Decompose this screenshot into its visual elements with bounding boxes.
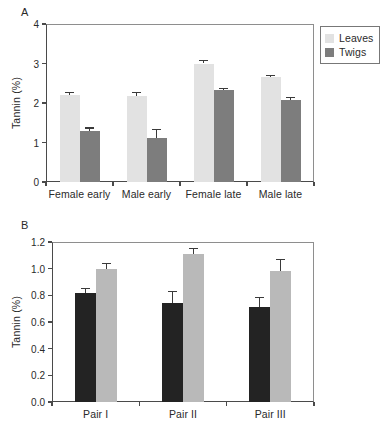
y-tick-mark <box>48 241 52 242</box>
y-tick-label: 1.0 <box>0 263 45 274</box>
bar-control-pair-i <box>96 269 117 402</box>
legend-swatch-icon <box>325 48 334 57</box>
y-tick-label: 0.6 <box>0 317 45 328</box>
x-tick-label: Male early <box>122 188 171 200</box>
x-tick-mark <box>45 182 46 186</box>
bar-control-pair-ii <box>183 254 204 402</box>
error-bar <box>156 129 157 138</box>
x-tick-label: Male late <box>259 188 303 200</box>
y-tick-mark <box>48 375 52 376</box>
y-tick-label: 0.2 <box>0 370 45 381</box>
legend-entry-leaves: Leaves <box>325 31 373 45</box>
y-tick-label: 0.4 <box>0 343 45 354</box>
error-bar-cap <box>266 75 275 76</box>
error-bar-cap <box>219 88 228 89</box>
bar-twigs-male-early <box>147 138 167 182</box>
x-tick-label: Female early <box>49 188 111 200</box>
y-tick-mark <box>42 23 46 24</box>
error-bar-cap <box>152 129 161 130</box>
x-tick-mark <box>246 182 247 186</box>
bar-leaves-female-early <box>60 95 80 182</box>
y-tick-mark <box>48 295 52 296</box>
legend-entry-twigs: Twigs <box>325 45 373 59</box>
legend-label: Twigs <box>339 46 366 58</box>
bar-control-pair-iii <box>270 271 291 402</box>
x-tick-mark <box>313 402 314 406</box>
error-bar <box>259 297 260 306</box>
panel-a-letter: A <box>21 6 29 18</box>
y-tick-mark <box>42 102 46 103</box>
error-bar-cap <box>276 259 285 260</box>
bar-leaves-male-early <box>127 96 147 182</box>
error-bar-cap <box>189 248 198 249</box>
panel-b-letter: B <box>21 219 29 231</box>
y-tick-label: 0.0 <box>0 397 45 408</box>
error-bar-cap <box>132 92 141 93</box>
x-tick-label: Pair I <box>83 408 108 420</box>
bar-twigs-female-early <box>80 131 100 182</box>
y-tick-label: 1.2 <box>0 237 45 248</box>
y-tick-label: 0.8 <box>0 290 45 301</box>
bar-shade-pair-ii <box>162 303 183 402</box>
x-tick-label: Pair II <box>169 408 197 420</box>
x-tick-mark <box>112 182 113 186</box>
y-tick-label: 1 <box>0 137 39 148</box>
x-tick-mark <box>139 402 140 406</box>
error-bar-cap <box>255 297 264 298</box>
legend-label: Leaves <box>339 32 373 44</box>
bar-leaves-male-late <box>261 77 281 182</box>
figure-root: A Tannin (%) 01234 Female earlyMale earl… <box>0 0 385 436</box>
bar-leaves-female-late <box>194 64 214 183</box>
y-tick-mark <box>48 268 52 269</box>
x-tick-mark <box>179 182 180 186</box>
bar-shade-pair-iii <box>249 307 270 402</box>
x-tick-label: Female late <box>186 188 242 200</box>
y-tick-mark <box>48 348 52 349</box>
panel-b: B Tannin (%) 0.00.20.40.60.81.01.2 Pair … <box>0 212 385 436</box>
error-bar-cap <box>286 97 295 98</box>
bar-twigs-female-late <box>214 90 234 182</box>
panel-a: A Tannin (%) 01234 Female earlyMale earl… <box>0 0 385 218</box>
y-tick-label: 0 <box>0 177 39 188</box>
legend-swatch-icon <box>325 34 334 43</box>
y-tick-mark <box>42 63 46 64</box>
bar-shade-pair-i <box>75 293 96 402</box>
error-bar-cap <box>81 288 90 289</box>
y-tick-mark <box>48 321 52 322</box>
y-tick-mark <box>42 142 46 143</box>
x-tick-mark <box>51 402 52 406</box>
error-bar-cap <box>102 263 111 264</box>
y-tick-label: 2 <box>0 98 39 109</box>
error-bar <box>172 291 173 302</box>
error-bar <box>280 259 281 270</box>
y-tick-label: 3 <box>0 58 39 69</box>
x-tick-mark <box>313 182 314 186</box>
error-bar-cap <box>85 127 94 128</box>
error-bar-cap <box>65 92 74 93</box>
x-tick-label: Pair III <box>255 408 286 420</box>
panel-a-legend: LeavesTwigs <box>320 26 380 64</box>
bar-twigs-male-late <box>281 100 301 182</box>
error-bar-cap <box>168 291 177 292</box>
error-bar-cap <box>199 60 208 61</box>
y-tick-label: 4 <box>0 19 39 30</box>
x-tick-mark <box>226 402 227 406</box>
